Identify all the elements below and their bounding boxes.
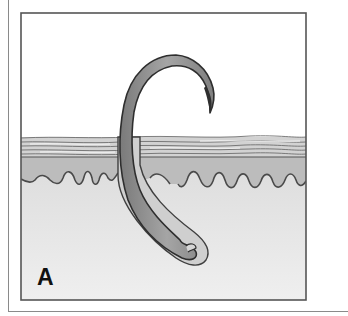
panel-label: A <box>37 266 54 289</box>
